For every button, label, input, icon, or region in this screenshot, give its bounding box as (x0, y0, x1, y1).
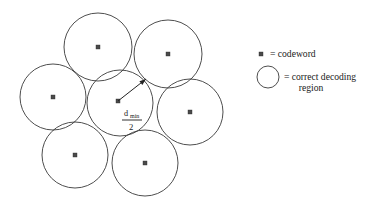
decoding-region-circles (20, 13, 223, 196)
radius-label-subscript: min (130, 113, 139, 119)
radius-label-numerator: d (124, 109, 128, 118)
legend-decoding-region-label-line2: region (299, 82, 324, 93)
figure-container: d min 2 = codeword = correct decoding re… (0, 0, 379, 202)
codeword-marker-top-left (96, 45, 100, 49)
legend: = codeword = correct decoding region (257, 48, 356, 93)
codeword-marker-middle-left (51, 95, 55, 99)
legend-circle-outline-icon (257, 66, 279, 88)
codeword-marker-bottom-left (73, 153, 77, 157)
legend-decoding-region-label-line1: = correct decoding (284, 71, 356, 82)
decoding-region-diagram: d min 2 = codeword = correct decoding re… (0, 0, 379, 202)
codeword-marker-bottom-right (143, 161, 147, 165)
legend-codeword-label: = codeword (270, 48, 316, 59)
codeword-marker-top-right (166, 52, 170, 56)
codeword-marker-middle-right (188, 110, 192, 114)
legend-square-marker-icon (259, 52, 263, 56)
radius-label-denominator: 2 (129, 122, 133, 132)
